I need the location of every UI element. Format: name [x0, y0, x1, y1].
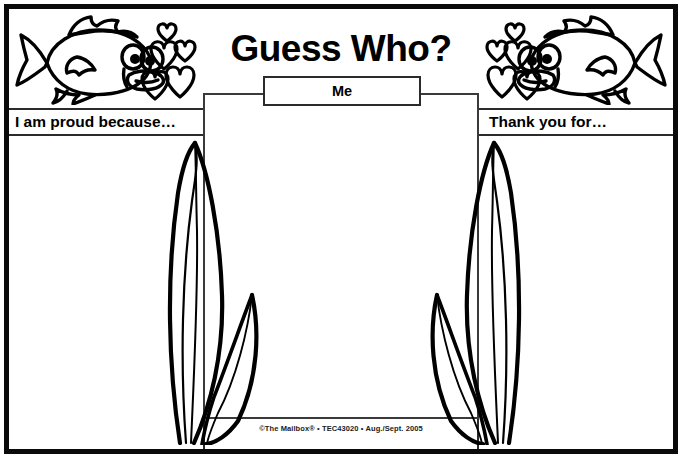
right-prompt-text: Thank you for…: [479, 113, 607, 131]
me-name-box[interactable]: Me: [263, 76, 421, 106]
me-label: Me: [332, 83, 352, 99]
worksheet-page: Guess Who?: [0, 0, 682, 458]
center-drawing-area[interactable]: [203, 93, 479, 419]
copyright-notice: ©The Mailbox® • TEC43020 • Aug./Sept. 20…: [9, 424, 673, 433]
worksheet-canvas: Guess Who?: [9, 9, 673, 449]
fish-right-illustration: [481, 13, 671, 109]
left-prompt-label: I am proud because…: [9, 108, 205, 136]
left-prompt-text: I am proud because…: [9, 113, 176, 131]
right-response-area[interactable]: [477, 136, 673, 449]
left-response-area[interactable]: [9, 136, 205, 449]
right-prompt-label: Thank you for…: [477, 108, 673, 136]
